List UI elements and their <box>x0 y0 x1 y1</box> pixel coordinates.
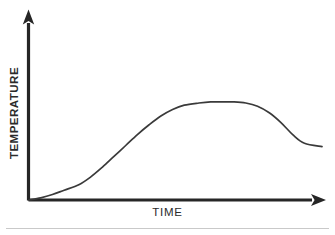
arrow-up-icon <box>23 10 34 25</box>
temperature-curve <box>29 102 322 200</box>
figure-canvas <box>0 0 335 235</box>
arrow-right-icon <box>311 194 326 206</box>
x-axis-label: TIME <box>0 206 335 218</box>
temperature-time-figure: TEMPERATURE TIME <box>0 0 335 235</box>
y-axis-label: TEMPERATURE <box>8 67 20 159</box>
